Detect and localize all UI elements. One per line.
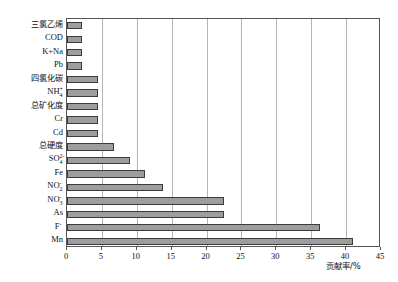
category-label: Cd xyxy=(0,128,63,137)
x-tick-label: 10 xyxy=(124,251,148,261)
category-label: NH4+ xyxy=(0,87,63,96)
bar xyxy=(67,22,82,29)
bar-row xyxy=(67,59,82,72)
category-label: SO42- xyxy=(0,154,63,163)
x-tick-label: 15 xyxy=(159,251,183,261)
x-tick-mark xyxy=(206,247,207,250)
category-label: 总硬度 xyxy=(0,141,63,150)
bar-row xyxy=(67,181,163,194)
x-tick-label: 0 xyxy=(54,251,78,261)
category-label: 三氯乙烯 xyxy=(0,20,63,29)
category-label: NO2- xyxy=(0,181,63,190)
category-label: Fe xyxy=(0,168,63,177)
bar xyxy=(67,143,114,150)
bar-row xyxy=(67,140,114,153)
bar xyxy=(67,62,82,69)
x-tick-mark xyxy=(136,247,137,250)
category-label: 四氯化碳 xyxy=(0,74,63,83)
bar-row xyxy=(67,86,98,99)
plot-area xyxy=(66,18,380,247)
x-tick-label: 20 xyxy=(194,251,218,261)
x-tick-label: 40 xyxy=(333,251,357,261)
x-tick-mark xyxy=(66,247,67,250)
bar-row xyxy=(67,127,98,140)
bar-row xyxy=(67,235,353,248)
bar xyxy=(67,36,82,43)
bar-row xyxy=(67,208,224,221)
bar-row xyxy=(67,19,82,32)
category-label: Mn xyxy=(0,235,63,244)
bars-layer xyxy=(67,19,379,246)
category-axis-labels: 三氯乙烯CODK+NaPb四氯化碳NH4+ 总矿化度CrCd总硬度SO42- F… xyxy=(0,18,63,247)
bar xyxy=(67,184,163,191)
x-tick-mark xyxy=(240,247,241,250)
x-tick-mark xyxy=(380,247,381,250)
x-tick-label: 30 xyxy=(263,251,287,261)
x-tick-mark xyxy=(171,247,172,250)
category-label: COD xyxy=(0,33,63,42)
bar xyxy=(67,238,353,245)
x-tick-label: 35 xyxy=(298,251,322,261)
bar xyxy=(67,103,98,110)
bar-row xyxy=(67,73,98,86)
category-label: F- xyxy=(0,222,63,231)
category-label: Pb xyxy=(0,60,63,69)
bar-row xyxy=(67,46,82,59)
contribution-rate-bar-chart: 三氯乙烯CODK+NaPb四氯化碳NH4+ 总矿化度CrCd总硬度SO42- F… xyxy=(0,0,398,282)
bar xyxy=(67,89,98,96)
x-tick-label: 45 xyxy=(368,251,392,261)
category-label: 总矿化度 xyxy=(0,101,63,110)
bar xyxy=(67,116,98,123)
x-tick-mark xyxy=(310,247,311,250)
bar-row xyxy=(67,167,145,180)
category-label: NO3- xyxy=(0,195,63,204)
category-label: K+Na xyxy=(0,47,63,56)
x-tick-mark xyxy=(345,247,346,250)
bar-row xyxy=(67,100,98,113)
bar xyxy=(67,130,98,137)
bar-row xyxy=(67,154,130,167)
bar-row xyxy=(67,32,82,45)
bar xyxy=(67,76,98,83)
bar xyxy=(67,197,224,204)
bar xyxy=(67,157,130,164)
x-tick-mark xyxy=(275,247,276,250)
category-label: As xyxy=(0,208,63,217)
bar xyxy=(67,49,82,56)
bar-row xyxy=(67,113,98,126)
bar-row xyxy=(67,221,320,234)
x-tick-label: 5 xyxy=(89,251,113,261)
x-tick-mark xyxy=(101,247,102,250)
bar xyxy=(67,170,145,177)
bar-row xyxy=(67,194,224,207)
category-label: Cr xyxy=(0,114,63,123)
bar xyxy=(67,224,320,231)
x-tick-label: 25 xyxy=(228,251,252,261)
bar xyxy=(67,211,224,218)
x-axis-title: 贡献率/% xyxy=(326,261,361,271)
